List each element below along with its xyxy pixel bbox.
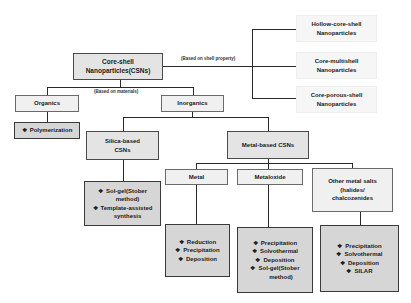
method-item: ❖Sol-gel(Stober (250, 264, 299, 273)
node-label: Hollow-core-shell (311, 20, 361, 29)
method-item: ❖Precipitation (250, 239, 299, 248)
connector-metaloxide-methods (268, 185, 269, 227)
method-item: ❖SILAR (336, 267, 382, 276)
connector-root-shell (163, 66, 252, 67)
connector-root-down (120, 80, 121, 87)
connector-metal-branch (196, 163, 353, 164)
method-item-cont: synthesis (93, 212, 153, 221)
node-label: Metaloxide (254, 173, 285, 182)
connector-inorganics-branch (123, 117, 269, 118)
node-other-metal-salts: Other metal salts (halides/ chalcozenide… (312, 168, 393, 212)
method-item-cont: method) (250, 273, 299, 282)
node-organics-methods: ❖Polymerization (14, 122, 80, 139)
method-item: ❖Precipitation (175, 246, 219, 255)
method-item: ❖Precipitation (336, 242, 382, 251)
method-list: ❖Polymerization (22, 126, 73, 135)
connector-organics (47, 87, 48, 95)
node-silica-methods: ❖Sol-gel(Stober method) ❖Template-assist… (84, 181, 161, 226)
bullet-icon: ❖ (340, 260, 345, 266)
method-item: ❖Polymerization (22, 126, 73, 135)
method-item: ❖Solvothermal (250, 247, 299, 256)
method-item: ❖Sol-gel(Stober (93, 187, 153, 196)
node-label: Other metal salts (328, 177, 377, 186)
bullet-icon: ❖ (252, 248, 257, 254)
annotation-materials: (Based on materials) (94, 89, 138, 94)
method-list: ❖Precipitation ❖Solvothermal ❖Deposition… (250, 239, 299, 282)
method-list: ❖Reduction ❖Precipitation ❖Deposition (175, 238, 219, 264)
node-other-salts-methods: ❖Precipitation ❖Solvothermal ❖Deposition… (320, 225, 399, 292)
node-label: Silica-based (105, 137, 140, 146)
method-item: ❖Deposition (175, 255, 219, 264)
connector-shell-bracket (252, 29, 253, 99)
connector-hollow (252, 29, 296, 30)
method-item-cont: method) (93, 195, 153, 204)
node-organics: Organics (15, 95, 79, 112)
connector-inorganics (193, 87, 194, 95)
bullet-icon: ❖ (250, 265, 255, 271)
method-list: ❖Precipitation ❖Solvothermal ❖Deposition… (336, 242, 382, 276)
node-label: Nanoparticles (317, 100, 357, 109)
node-label: Organics (34, 99, 60, 108)
node-label: Metal (189, 173, 204, 182)
node-hollow-core-shell: Hollow-core-shell Nanoparticles (296, 15, 377, 42)
connector-porous (252, 98, 296, 99)
method-item: ❖Solvothermal (336, 250, 382, 259)
node-core-porous-shell: Core-porous-shell Nanoparticles (296, 86, 377, 113)
bullet-icon: ❖ (336, 251, 341, 257)
node-core-multishell: Core-multishell Nanoparticles (296, 52, 377, 79)
bullet-icon: ❖ (22, 127, 27, 133)
method-item: ❖Reduction (175, 238, 219, 247)
bullet-icon: ❖ (98, 188, 103, 194)
connector-silica-methods (123, 160, 124, 181)
node-metaloxide: Metaloxide (237, 169, 303, 185)
connector-metal-methods (196, 185, 197, 224)
node-inorganics: Inorganics (161, 95, 224, 112)
method-item: ❖Deposition (336, 259, 382, 268)
node-silica-based: Silica-based CSNs (86, 131, 159, 160)
node-label: Metal-based CSNs (242, 141, 294, 150)
connector-metal-based (268, 117, 269, 131)
bullet-icon: ❖ (253, 240, 258, 246)
bullet-icon: ❖ (93, 205, 98, 211)
node-label: CSNs (114, 146, 130, 155)
node-label: Nanoparticles (317, 29, 357, 38)
node-label: Inorganics (177, 99, 207, 108)
node-label: Core-porous-shell (311, 91, 363, 100)
node-label: Nanoparticles (317, 66, 357, 75)
connector-other-methods (360, 212, 361, 225)
bullet-icon: ❖ (337, 243, 342, 249)
node-label: Core-shell (102, 58, 134, 67)
node-metal: Metal (165, 169, 228, 185)
connector-materials (47, 87, 194, 88)
node-label: Core-multishell (315, 57, 359, 66)
node-metaloxide-methods: ❖Precipitation ❖Solvothermal ❖Deposition… (237, 227, 313, 293)
node-core-shell-nanoparticles: Core-shell Nanoparticles(CSNs) (73, 53, 163, 80)
node-label: chalcozenides (332, 194, 373, 203)
bullet-icon: ❖ (179, 239, 184, 245)
bullet-icon: ❖ (255, 257, 260, 263)
method-list: ❖Sol-gel(Stober method) ❖Template-assist… (93, 187, 153, 221)
connector-organics-methods (47, 112, 48, 122)
bullet-icon: ❖ (175, 247, 180, 253)
bullet-icon: ❖ (346, 268, 351, 274)
method-item: ❖Deposition (250, 256, 299, 265)
connector-silica (123, 117, 124, 131)
node-label: Nanoparticles(CSNs) (86, 67, 151, 76)
bullet-icon: ❖ (178, 256, 183, 262)
method-item: ❖Template-assisted (93, 204, 153, 213)
node-label: (halides/ (340, 186, 364, 195)
annotation-shell-property: (Based on shell property) (181, 56, 235, 61)
node-metal-methods: ❖Reduction ❖Precipitation ❖Deposition (165, 224, 230, 277)
connector-multishell (252, 66, 296, 67)
node-metal-based: Metal-based CSNs (227, 131, 309, 159)
